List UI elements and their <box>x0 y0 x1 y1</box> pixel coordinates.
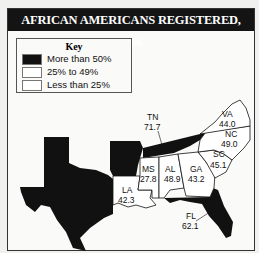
label-la-value: 42.3 <box>118 195 135 205</box>
state-tx <box>20 137 113 251</box>
southern-states-map: TN 71.7 VA 44.0 NC 49.0 SC 45.1 GA 43.2 … <box>0 0 259 253</box>
label-ms-abbr: MS <box>142 164 155 174</box>
label-fl-abbr: FL <box>186 211 196 221</box>
label-nc-abbr: NC <box>225 129 237 139</box>
label-ga-value: 43.2 <box>188 174 205 184</box>
label-fl-value: 62.1 <box>182 221 199 231</box>
label-va-value: 44.0 <box>219 119 236 129</box>
label-sc-value: 45.1 <box>210 160 227 170</box>
label-tn-abbr: TN <box>147 112 158 122</box>
label-tn-value: 71.7 <box>144 122 161 132</box>
label-al-abbr: AL <box>165 164 176 174</box>
label-al-value: 48.9 <box>164 174 181 184</box>
label-ms-value: 27.8 <box>140 174 157 184</box>
label-va-abbr: VA <box>222 109 233 119</box>
label-sc-abbr: SC <box>213 149 225 159</box>
label-ga-abbr: GA <box>190 164 203 174</box>
label-la-abbr: LA <box>122 185 133 195</box>
label-nc-value: 49.0 <box>221 139 238 149</box>
state-ar <box>110 141 143 176</box>
